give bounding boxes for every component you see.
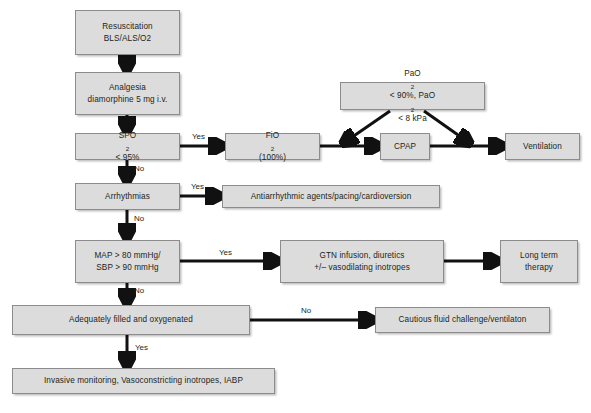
- node-ventilation-label: Ventilation: [523, 141, 562, 152]
- node-cpap[interactable]: CPAP: [380, 133, 430, 160]
- node-pao2-label: PaO2 < 90%, PaO2 < 8 kPa: [390, 68, 435, 123]
- node-map-sbp[interactable]: MAP > 80 mmHg/ SBP > 90 mmHg: [75, 240, 180, 283]
- edge-label-map-yes: Yes: [219, 248, 232, 257]
- node-fio2[interactable]: FiO2 (100%): [225, 133, 320, 160]
- node-gtn-line2: +/– vasodilating inotropes: [314, 262, 410, 273]
- node-long-term-therapy[interactable]: Long term therapy: [500, 240, 578, 283]
- node-cautious-fluid[interactable]: Cautious fluid challenge/ventilaton: [375, 307, 550, 333]
- node-gtn-line1: GTN infusion, diuretics: [314, 250, 410, 261]
- node-adequately-filled[interactable]: Adequately filled and oxygenated: [12, 305, 250, 335]
- node-invasive-label: Invasive monitoring, Vasoconstricting in…: [44, 375, 243, 386]
- node-fio2-label: FiO2 (100%): [259, 130, 286, 163]
- node-long-term-line1: Long term: [520, 250, 558, 261]
- node-antiarrhythmic-label: Antiarrhythmic agents/pacing/cardioversi…: [251, 191, 412, 202]
- node-map-sbp-line2: SBP > 90 mmHg: [94, 262, 160, 273]
- edge-label-adequately-yes: Yes: [135, 343, 148, 352]
- node-analgesia[interactable]: Analgesia diamorphine 5 mg i.v.: [75, 72, 180, 115]
- node-invasive-monitoring[interactable]: Invasive monitoring, Vasoconstricting in…: [12, 368, 275, 394]
- node-map-sbp-line1: MAP > 80 mmHg/: [94, 250, 160, 261]
- flowchart-canvas: Resuscitation BLS/ALS/O2 Analgesia diamo…: [0, 0, 591, 413]
- edge-label-spo2-no: No: [134, 164, 144, 173]
- edge-label-arrhythmias-yes: Yes: [191, 182, 204, 191]
- node-resuscitation-line2: BLS/ALS/O2: [102, 33, 152, 44]
- node-spo2[interactable]: SPO2 < 95%: [75, 133, 180, 160]
- node-arrhythmias[interactable]: Arrhythmias: [75, 183, 180, 210]
- edge-label-map-no: No: [134, 286, 144, 295]
- node-resuscitation-line1: Resuscitation: [102, 21, 152, 32]
- node-gtn[interactable]: GTN infusion, diuretics +/– vasodilating…: [280, 240, 444, 283]
- edge-label-arrhythmias-no: No: [134, 214, 144, 223]
- node-analgesia-line1: Analgesia: [88, 82, 168, 93]
- node-arrhythmias-label: Arrhythmias: [105, 191, 150, 202]
- node-ventilation[interactable]: Ventilation: [505, 133, 580, 160]
- node-spo2-label: SPO2 < 95%: [116, 130, 140, 163]
- node-antiarrhythmic[interactable]: Antiarrhythmic agents/pacing/cardioversi…: [222, 185, 440, 208]
- node-resuscitation[interactable]: Resuscitation BLS/ALS/O2: [75, 10, 180, 55]
- edge-label-adequately-no: No: [301, 306, 311, 315]
- edge-label-spo2-yes: Yes: [192, 132, 205, 141]
- node-analgesia-line2: diamorphine 5 mg i.v.: [88, 94, 168, 105]
- node-cautious-label: Cautious fluid challenge/ventilaton: [399, 314, 527, 325]
- node-adequately-label: Adequately filled and oxygenated: [69, 314, 193, 325]
- node-pao2[interactable]: PaO2 < 90%, PaO2 < 8 kPa: [340, 82, 485, 110]
- node-long-term-line2: therapy: [520, 262, 558, 273]
- node-cpap-label: CPAP: [394, 141, 416, 152]
